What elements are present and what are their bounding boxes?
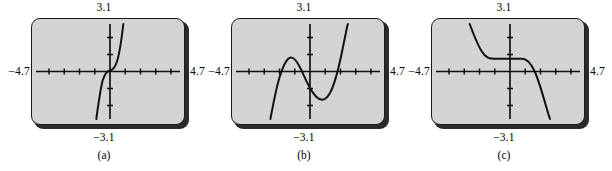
panel-a: 3.1 −4.7 4.7 −3.1 (a) [0,0,206,171]
calculator-screens-figure: 3.1 −4.7 4.7 −3.1 (a) [0,0,612,171]
panel-b-screen [231,18,389,129]
panel-a-ymin-label: −3.1 [0,132,206,144]
panel-c-screen [431,18,589,129]
panel-c: 3.1 −4.7 4.7 −3.1 (c) [400,0,606,171]
panel-c-screen-face [431,18,585,125]
panel-a-ymax-label: 3.1 [0,2,206,14]
panel-a-xmin-label: −4.7 [0,66,30,78]
panel-b-xmin-label: −4.7 [200,66,230,78]
panel-c-xmin-label: −4.7 [400,66,430,78]
panel-b-ymin-label: −3.1 [200,132,406,144]
panel-b-plot [232,19,384,124]
panel-c-xmax-label: 4.7 [590,66,612,78]
panel-b-ymax-label: 3.1 [200,2,406,14]
panel-a-screen [31,18,189,129]
panel-b: 3.1 −4.7 4.7 −3.1 (b) [200,0,406,171]
panel-a-plot [32,19,184,124]
panel-b-screen-face [231,18,385,125]
panel-c-plot [432,19,584,124]
panel-a-screen-face [31,18,185,125]
panel-a-caption: (a) [0,150,206,162]
panel-c-caption: (c) [400,150,606,162]
panel-c-ymax-label: 3.1 [400,2,606,14]
panel-c-ymin-label: −3.1 [400,132,606,144]
panel-b-caption: (b) [200,150,406,162]
